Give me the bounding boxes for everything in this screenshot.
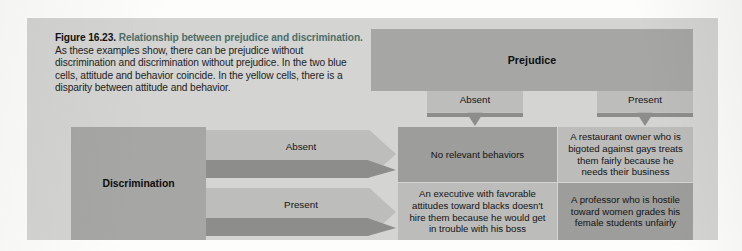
discrimination-row-header: Discrimination bbox=[71, 127, 206, 240]
row-absent-arrow-icon bbox=[206, 160, 396, 178]
cell-text: A restaurant owner who is bigoted agains… bbox=[565, 131, 686, 177]
cell-discrimination-present-prejudice-absent: An executive with favorable attitudes to… bbox=[398, 183, 557, 240]
figure-caption: Figure 16.23. Relationship between preju… bbox=[55, 32, 363, 95]
prejudice-header-label: Prejudice bbox=[508, 54, 557, 66]
row-label-absent-text: Absent bbox=[286, 141, 317, 152]
cell-discrimination-absent-prejudice-absent: No relevant behaviors bbox=[398, 127, 557, 182]
row-present-arrow-icon bbox=[206, 218, 396, 236]
column-label-absent-text: Absent bbox=[460, 94, 491, 105]
cell-discrimination-present-prejudice-present: A professor who is hostile toward women … bbox=[558, 183, 693, 240]
scanned-page: Figure 16.23. Relationship between preju… bbox=[0, 0, 742, 251]
figure-panel: Figure 16.23. Relationship between preju… bbox=[27, 18, 718, 240]
column-label-present-text: Present bbox=[628, 94, 662, 105]
discrimination-header-label: Discrimination bbox=[102, 178, 174, 189]
cell-text: No relevant behaviors bbox=[431, 149, 524, 161]
column-present-arrow-icon bbox=[597, 111, 693, 126]
figure-caption-body: As these examples show, there can be pre… bbox=[55, 45, 347, 94]
prejudice-column-header: Prejudice bbox=[371, 29, 693, 91]
figure-number: Figure 16.23. bbox=[55, 32, 116, 43]
cell-text: An executive with favorable attitudes to… bbox=[405, 188, 550, 234]
figure-title: Relationship between prejudice and discr… bbox=[119, 32, 363, 43]
cell-text: A professor who is hostile toward women … bbox=[565, 194, 686, 229]
column-absent-arrow-icon bbox=[427, 111, 523, 126]
cell-discrimination-absent-prejudice-present: A restaurant owner who is bigoted agains… bbox=[558, 127, 693, 182]
row-label-present-text: Present bbox=[284, 199, 318, 210]
